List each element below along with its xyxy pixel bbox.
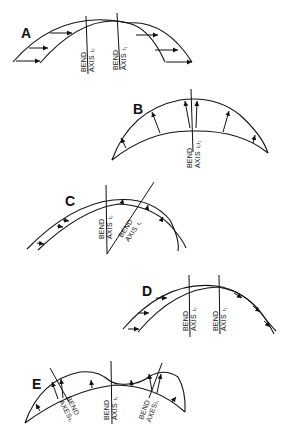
svg-text:BEND: BEND — [182, 311, 189, 331]
panel-b: B BEND AXIS t₀t₁ — [112, 89, 268, 168]
arrow-icon — [196, 101, 197, 128]
arrow-icon — [57, 226, 63, 227]
panel-e: E BEND AXES t₁ BEND AXIS t₀ BEND AXES — [25, 361, 185, 424]
panel-a: A BEND AXIS t₀ BEND AXIS t₁ — [13, 13, 192, 74]
arrow-icon — [253, 135, 255, 143]
arrow-icon — [223, 111, 229, 132]
panel-b-label: B — [133, 101, 143, 117]
arrow-icon — [157, 374, 161, 393]
arrow-icon — [52, 382, 58, 399]
svg-text:t₁: t₁ — [121, 46, 127, 50]
panel-e-axis-t1-right-label: BEND AXES t₁ — [137, 396, 159, 423]
arrow-icon — [36, 404, 40, 411]
panel-c-axis-t0-label: BEND AXIS t₀ — [98, 215, 113, 239]
svg-text:t₀: t₀ — [89, 48, 95, 52]
svg-text:AXIS: AXIS — [194, 151, 201, 168]
panel-d-label: D — [142, 283, 152, 299]
arrow-icon — [152, 112, 160, 133]
svg-text:BEND: BEND — [80, 52, 87, 72]
svg-text:AXIS: AXIS — [88, 55, 95, 72]
svg-text:t₀: t₀ — [191, 307, 197, 311]
panel-e-label: E — [32, 376, 41, 392]
arrow-icon — [147, 205, 148, 209]
svg-text:AXIS: AXIS — [120, 53, 127, 70]
panel-c-label: C — [65, 193, 75, 209]
panel-a-label: A — [21, 25, 31, 41]
svg-text:AXIS: AXIS — [220, 314, 227, 331]
arrow-icon — [37, 243, 44, 244]
svg-text:t₀t₁: t₀t₁ — [195, 141, 201, 148]
arrow-icon — [121, 138, 126, 148]
svg-text:t₁: t₁ — [135, 220, 142, 226]
svg-text:AXIS: AXIS — [190, 314, 197, 331]
panel-d-inner-curve — [138, 287, 274, 334]
arrow-icon — [172, 397, 176, 402]
svg-text:BEND: BEND — [112, 50, 119, 70]
panel-e-axis-t1-left-label: BEND AXES t₁ — [58, 395, 82, 423]
panel-c: C BEND AXIS t₀ BEND AXIS t₁ — [27, 182, 186, 254]
svg-text:BEND: BEND — [186, 148, 193, 168]
svg-text:BEND: BEND — [98, 219, 105, 239]
bend-axis-diagram: A BEND AXIS t₀ BEND AXIS t₁ B — [0, 0, 293, 440]
arrow-icon — [149, 374, 152, 391]
svg-text:t₁: t₁ — [221, 307, 227, 311]
panel-c-axis-t1-label: BEND AXIS t₁ — [117, 215, 142, 243]
panel-e-axis-t0-label: BEND AXIS t₀ — [103, 396, 118, 420]
panel-b-axis-label: BEND AXIS t₀t₁ — [186, 141, 201, 168]
arrow-icon — [185, 101, 190, 128]
svg-text:AXIS: AXIS — [111, 403, 118, 420]
bend-axis-line-t0-t1 — [191, 89, 193, 152]
svg-text:t₀: t₀ — [112, 396, 118, 400]
panel-a-axis-t1-label: BEND AXIS t₁ — [112, 46, 127, 70]
arrow-icon — [91, 380, 92, 388]
svg-text:AXIS: AXIS — [106, 222, 113, 239]
svg-text:BEND: BEND — [212, 311, 219, 331]
panel-d: D BEND AXIS t₀ BEND AXIS t₁ — [123, 275, 276, 337]
arrow-icon — [63, 220, 69, 221]
bend-axis-line-t1 — [107, 182, 154, 254]
svg-text:t₁: t₁ — [153, 399, 160, 404]
svg-text:t₀: t₀ — [107, 215, 113, 219]
svg-text:BEND: BEND — [103, 400, 110, 420]
